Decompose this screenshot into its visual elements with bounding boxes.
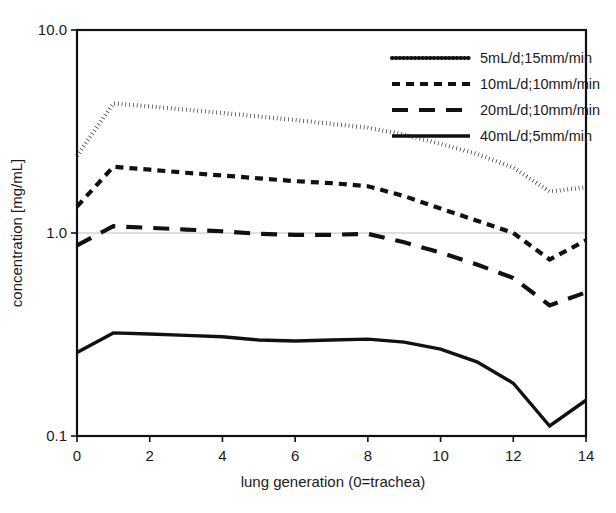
x-tick-label: 6 <box>291 447 299 464</box>
concentration-vs-lung-generation-chart: 0.11.010.0 02468101214 lung generation (… <box>0 0 616 513</box>
chart-container: 0.11.010.0 02468101214 lung generation (… <box>0 0 616 513</box>
x-tick-label: 2 <box>146 447 154 464</box>
legend-label-0: 5mL/d;15mm/min <box>480 50 592 66</box>
legend-label-1: 10mL/d;10mm/min <box>480 76 600 92</box>
x-axis-title: lung generation (0=trachea) <box>241 473 426 490</box>
y-axis-title: concentration [mg/mL] <box>8 159 25 307</box>
y-tick-label: 0.1 <box>46 427 67 444</box>
x-tick-label: 8 <box>364 447 372 464</box>
x-tick-label: 12 <box>505 447 522 464</box>
y-tick-label: 1.0 <box>46 224 67 241</box>
legend-label-3: 40mL/d;5mm/min <box>480 128 592 144</box>
x-tick-label: 4 <box>218 447 226 464</box>
x-tick-label: 14 <box>578 447 595 464</box>
x-tick-label: 10 <box>432 447 449 464</box>
legend-label-2: 20mL/d;10mm/min <box>480 102 600 118</box>
y-tick-label: 10.0 <box>38 21 67 38</box>
x-tick-label: 0 <box>73 447 81 464</box>
